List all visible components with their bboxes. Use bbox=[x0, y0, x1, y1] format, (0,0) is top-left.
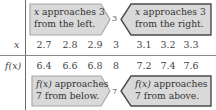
function-fx: f(x) bbox=[135, 78, 151, 89]
callout-text: x approaches 3 from the right. bbox=[135, 6, 206, 30]
x-value: 3.1 bbox=[133, 39, 155, 50]
callout-x-from-right: x approaches 3 from the right. bbox=[120, 3, 212, 36]
x-value: 3.3 bbox=[180, 39, 202, 50]
fx-value: 7.4 bbox=[157, 60, 179, 71]
callout-line2: from the left. bbox=[34, 18, 95, 29]
callout-line2: 7 from below. bbox=[36, 90, 99, 101]
x-value: 3 bbox=[105, 39, 127, 50]
callout-text: f(x) approaches 7 from above. bbox=[135, 78, 208, 102]
fx-value: 6.6 bbox=[59, 60, 81, 71]
function-fx: f(x) bbox=[36, 78, 52, 89]
fx-value: 7.6 bbox=[180, 60, 202, 71]
limit-value-label: 7 bbox=[112, 87, 117, 96]
callout-line2: from the right. bbox=[135, 18, 204, 29]
table-horizontal-rule bbox=[0, 55, 216, 56]
limit-point-label: 3 bbox=[112, 14, 117, 23]
callout-fx-from-below: f(x) approaches 7 from below. bbox=[31, 75, 111, 107]
callout-line1: approaches 3 bbox=[140, 6, 206, 17]
callout-text: f(x) approaches 7 from below. bbox=[36, 78, 109, 102]
fx-value: 7.2 bbox=[133, 60, 155, 71]
fx-value: 6.4 bbox=[33, 60, 55, 71]
callout-line1: approaches bbox=[52, 78, 109, 89]
callout-x-from-left: x approaches 3 from the left. bbox=[29, 3, 111, 36]
row-label-x: x bbox=[14, 39, 19, 50]
callout-line1: approaches 3 bbox=[39, 6, 105, 17]
callout-fx-from-above: f(x) approaches 7 from above. bbox=[120, 75, 212, 107]
row-label-fx: f(x) bbox=[5, 60, 21, 71]
x-value: 2.9 bbox=[84, 39, 106, 50]
fx-value: 6.8 bbox=[84, 60, 106, 71]
callout-text: x approaches 3 from the left. bbox=[34, 6, 105, 30]
x-value: 2.7 bbox=[33, 39, 55, 50]
x-value: 3.2 bbox=[157, 39, 179, 50]
x-value: 2.8 bbox=[59, 39, 81, 50]
callout-line2: 7 from above. bbox=[135, 90, 199, 101]
fx-value: 8 bbox=[105, 60, 127, 71]
callout-line1: approaches bbox=[151, 78, 208, 89]
